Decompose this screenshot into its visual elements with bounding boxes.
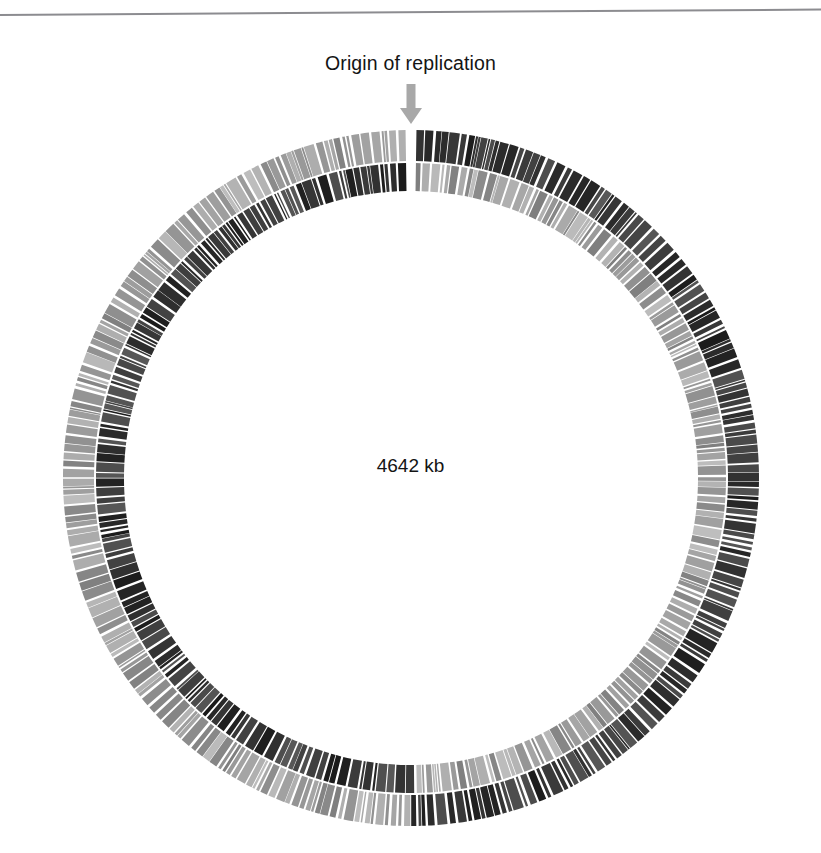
gene-bar	[435, 793, 447, 825]
gene-bar	[385, 794, 390, 825]
gene-bar	[376, 763, 388, 792]
gene-bar	[391, 794, 397, 825]
gene-bar	[97, 497, 125, 504]
gene-bar	[427, 794, 435, 825]
gene-bar	[389, 130, 397, 161]
gene-bar	[698, 487, 726, 495]
gene-bar	[98, 439, 126, 446]
gene-bar	[421, 795, 425, 826]
circular-genome-map: Origin of replication 4642 kb	[0, 0, 821, 853]
genome-rings-svg	[0, 0, 821, 853]
gene-bar	[728, 487, 759, 495]
gene-bar	[424, 130, 433, 161]
gene-bar	[698, 477, 726, 481]
gene-bar	[406, 765, 414, 793]
gene-bar	[426, 764, 433, 792]
gene-bar	[418, 795, 421, 826]
gene-bar	[63, 494, 94, 504]
gene-bar	[398, 163, 407, 191]
origin-of-replication-label: Origin of replication	[0, 52, 821, 75]
gene-bar	[430, 164, 440, 193]
gene-bar	[404, 795, 410, 826]
gene-bar	[395, 765, 405, 793]
figure-page: Origin of replication 4642 kb	[0, 0, 821, 853]
gene-bar	[63, 486, 94, 489]
gene-bar	[380, 164, 386, 192]
gene-bar	[386, 764, 395, 792]
gene-bar	[440, 763, 452, 792]
gene-bar	[416, 765, 422, 793]
gene-bar	[398, 795, 402, 826]
gene-bar	[96, 487, 124, 496]
gene-bar	[371, 131, 382, 163]
gene-bar	[63, 489, 94, 495]
gene-bar	[422, 163, 430, 191]
origin-arrow-icon	[400, 84, 422, 124]
gene-bar	[645, 243, 674, 270]
gene-bar	[728, 481, 759, 487]
gene-bar	[446, 132, 460, 164]
gene-bar	[697, 496, 725, 504]
gene-bar	[64, 504, 96, 516]
genome-size-label: 4642 kb	[0, 455, 821, 477]
gene-bar	[97, 503, 126, 515]
gene-bar	[447, 792, 456, 823]
gene-bar	[97, 444, 126, 455]
gene-bar	[698, 481, 726, 487]
gene-bar	[390, 163, 397, 191]
gene-bar	[398, 130, 406, 161]
gene-bar	[727, 495, 758, 500]
inner-ring	[96, 163, 726, 793]
outer-ring	[63, 130, 759, 826]
gene-bar	[422, 765, 425, 793]
gene-bar	[416, 130, 424, 161]
gene-bar	[375, 793, 385, 825]
gene-bar	[96, 479, 124, 487]
gene-bar	[63, 479, 94, 487]
gene-bar	[411, 795, 416, 826]
gene-bar	[440, 165, 445, 193]
gene-bar	[416, 163, 421, 191]
